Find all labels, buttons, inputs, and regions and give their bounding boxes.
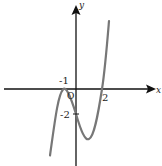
x-axis-label: x <box>156 85 161 95</box>
tick-label-x-neg1: -1 <box>59 75 69 86</box>
cubic-curve <box>50 21 109 156</box>
y-axis-label: y <box>78 0 85 10</box>
graph-svg: x y O -1 2 -2 <box>0 0 162 166</box>
origin-label: O <box>67 91 74 101</box>
tick-label-y-neg2: -2 <box>60 109 70 120</box>
tick-label-x-2: 2 <box>102 92 108 103</box>
